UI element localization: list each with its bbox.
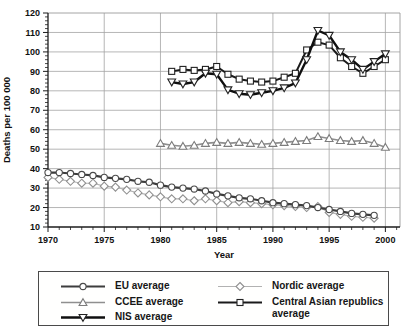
circle-marker-icon (214, 191, 220, 197)
x-axis-title: Year (214, 249, 234, 260)
y-tick-label: 100 (25, 47, 40, 57)
circle-marker-icon (135, 178, 141, 184)
legend-item-central-asian-average: Central Asian republics average (217, 295, 387, 321)
circle-marker-icon (304, 203, 310, 209)
legend-sample (217, 296, 263, 309)
y-tick-label: 90 (30, 67, 40, 77)
x-tick-label: 1995 (319, 235, 339, 245)
square-marker-icon (191, 67, 197, 73)
y-tick-label: 60 (30, 125, 40, 135)
circle-marker-icon (180, 185, 186, 191)
diamond-marker-icon (236, 283, 244, 291)
diamond-marker-icon (134, 189, 142, 197)
legend-item-label: EU average (115, 279, 169, 293)
circle-marker-icon (60, 279, 106, 292)
legend-sample (217, 280, 263, 293)
legend-sample (60, 311, 106, 324)
square-marker-icon (259, 79, 265, 85)
diamond-marker-icon (156, 193, 164, 201)
y-axis-title: Deaths per 100 000 (1, 77, 12, 163)
circle-marker-icon (371, 212, 377, 218)
circle-marker-icon (225, 193, 231, 199)
circle-marker-icon (326, 206, 332, 212)
diamond-marker-icon (89, 179, 97, 187)
triangle-up-marker-icon (314, 133, 322, 140)
circle-marker-icon (281, 201, 287, 207)
diamond-marker-icon (78, 179, 86, 187)
diamond-marker-icon (168, 195, 176, 203)
square-marker-icon (326, 42, 332, 48)
diamond-marker-icon (66, 177, 74, 185)
legend-item-label: CCEE average (115, 295, 183, 309)
circle-marker-icon (349, 210, 355, 216)
x-tick-label: 1970 (38, 235, 58, 245)
triangle-down-marker-icon (60, 310, 106, 323)
square-marker-icon (180, 66, 186, 72)
legend-column-2: Nordic average Central Asian republics a… (217, 279, 387, 325)
diamond-marker-icon (179, 195, 187, 203)
x-tick-label: 2000 (375, 235, 395, 245)
circle-marker-icon (236, 195, 242, 201)
circle-marker-icon (169, 184, 175, 190)
circle-marker-icon (146, 179, 152, 185)
square-marker-icon (237, 299, 243, 305)
circle-marker-icon (202, 188, 208, 194)
diamond-marker-icon (111, 183, 119, 191)
y-tick-label: 80 (30, 86, 40, 96)
square-marker-icon (292, 70, 298, 76)
y-tick-label: 20 (30, 203, 40, 213)
circle-marker-icon (79, 171, 85, 177)
legend-item-nordic-average: Nordic average (217, 279, 387, 293)
legend: EU average CCEE average NIS average Nord… (38, 271, 389, 326)
series-eu-average (45, 169, 377, 218)
circle-marker-icon (124, 176, 130, 182)
diamond-marker-icon (217, 279, 263, 292)
circle-marker-icon (191, 186, 197, 192)
diamond-marker-icon (100, 182, 108, 190)
square-marker-icon (169, 68, 175, 74)
diamond-marker-icon (190, 197, 198, 205)
triangle-up-marker-icon (60, 295, 106, 308)
square-marker-icon (217, 295, 263, 308)
y-tick-label: 30 (30, 183, 40, 193)
diamond-marker-icon (55, 175, 63, 183)
square-marker-icon (236, 76, 242, 82)
circle-marker-icon (259, 198, 265, 204)
circle-marker-icon (112, 175, 118, 181)
circle-marker-icon (90, 172, 96, 178)
circle-marker-icon (315, 204, 321, 210)
legend-item-label: NIS average (115, 310, 172, 324)
circle-marker-icon (157, 182, 163, 188)
diamond-marker-icon (213, 197, 221, 205)
x-tick-label: 1985 (207, 235, 227, 245)
y-tick-label: 120 (25, 8, 40, 18)
circle-marker-icon (56, 169, 62, 175)
circle-marker-icon (292, 202, 298, 208)
square-marker-icon (225, 71, 231, 77)
y-tick-label: 50 (30, 144, 40, 154)
circle-marker-icon (80, 283, 86, 289)
legend-sample (60, 296, 106, 309)
circle-marker-icon (101, 174, 107, 180)
square-marker-icon (247, 78, 253, 84)
mortality-trend-figure: 1020304050607080901001101201970197519801… (0, 0, 404, 332)
y-tick-label: 110 (25, 28, 40, 38)
series-line (48, 173, 374, 216)
circle-marker-icon (67, 170, 73, 176)
y-tick-label: 70 (30, 105, 40, 115)
diamond-marker-icon (224, 199, 232, 207)
legend-sample (60, 280, 106, 293)
circle-marker-icon (270, 200, 276, 206)
circle-marker-icon (247, 196, 253, 202)
circle-marker-icon (45, 169, 51, 175)
square-marker-icon (214, 64, 220, 70)
diamond-marker-icon (145, 191, 153, 199)
legend-item-eu-average: EU average (60, 279, 217, 293)
series-nordic-average (44, 173, 378, 222)
y-tick-label: 10 (30, 222, 40, 232)
circle-marker-icon (360, 211, 366, 217)
y-tick-label: 40 (30, 164, 40, 174)
legend-column-1: EU average CCEE average NIS average (60, 279, 217, 325)
triangle-down-marker-icon (303, 57, 311, 64)
legend-item-ccee-average: CCEE average (60, 295, 217, 309)
